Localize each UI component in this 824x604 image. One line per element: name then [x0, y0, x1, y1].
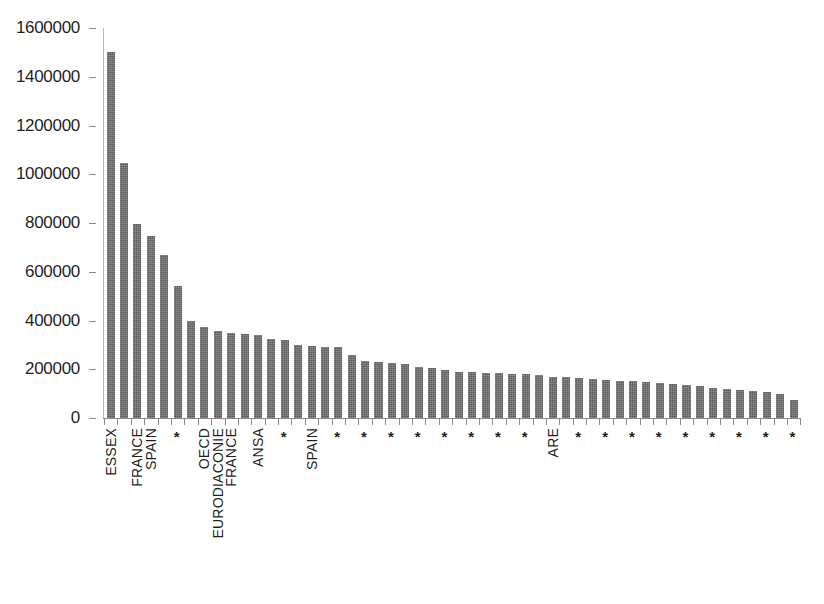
x-axis-label-slot: * — [358, 428, 371, 578]
x-axis-tick-slot — [492, 419, 505, 426]
bar — [254, 335, 262, 418]
x-axis-asterisk-label: * — [575, 429, 581, 444]
bar-slot — [452, 28, 465, 418]
bar — [361, 361, 369, 418]
x-axis-label-slot: ESSEX — [104, 428, 117, 578]
bar — [187, 321, 195, 419]
bar-slot — [640, 28, 653, 418]
x-axis-label-slot: * — [278, 428, 291, 578]
bar — [147, 236, 155, 418]
bar — [776, 394, 784, 418]
x-axis-tick-slot — [506, 419, 519, 426]
x-axis-tick-slot — [225, 419, 238, 426]
x-axis-tick-slot — [144, 419, 157, 426]
y-axis-tick-mark — [89, 126, 96, 127]
bar-slot — [787, 28, 800, 418]
x-axis-tick-mark — [747, 419, 748, 425]
bar-slot — [707, 28, 720, 418]
bar-slot — [466, 28, 479, 418]
y-axis-tick-label: 200000 — [25, 359, 80, 379]
x-axis-tick-mark — [211, 419, 212, 425]
bar-slot — [412, 28, 425, 418]
bar-slot — [117, 28, 130, 418]
x-axis-tick-mark — [265, 419, 266, 425]
bar — [267, 339, 275, 418]
x-axis-tick-mark — [586, 419, 587, 425]
x-axis-tick-slot — [412, 419, 425, 426]
x-axis-tick-mark — [291, 419, 292, 425]
x-axis-tick-slot — [158, 419, 171, 426]
bar — [468, 372, 476, 418]
x-axis-tick-mark — [131, 419, 132, 425]
x-axis-tick-slot — [198, 419, 211, 426]
x-axis-tick-slot — [774, 419, 787, 426]
x-axis-tick-slot — [599, 419, 612, 426]
x-axis-tick-mark — [466, 419, 467, 425]
x-axis-tick-mark — [479, 419, 480, 425]
x-axis-label-slot: * — [599, 428, 612, 578]
x-axis-tick-mark — [506, 419, 507, 425]
x-axis-tick-mark — [720, 419, 721, 425]
y-axis-tick-label: 800000 — [25, 213, 80, 233]
bar-slot — [144, 28, 157, 418]
bar — [294, 345, 302, 418]
x-axis-tick-mark — [452, 419, 453, 425]
bars-layer — [104, 28, 800, 418]
plot-area — [104, 28, 800, 418]
bar — [522, 374, 530, 418]
x-axis-tick-mark — [332, 419, 333, 425]
x-axis-tick-slot — [104, 419, 117, 426]
x-axis-tick-slot — [372, 419, 385, 426]
x-axis-tick-slot — [425, 419, 438, 426]
x-axis-tick-slot — [533, 419, 546, 426]
x-axis-tick-mark — [533, 419, 534, 425]
y-axis-tick-label: 400000 — [25, 311, 80, 331]
bar — [495, 373, 503, 418]
x-axis-label-slot — [452, 428, 465, 578]
x-axis-asterisk-label: * — [361, 429, 367, 444]
bar — [616, 381, 624, 418]
bar-slot — [225, 28, 238, 418]
x-axis-tick-slot — [479, 419, 492, 426]
x-axis-tick-mark — [599, 419, 600, 425]
bar — [549, 377, 557, 418]
x-axis-label-slot — [318, 428, 331, 578]
x-axis-tick-slot — [720, 419, 733, 426]
y-axis-tick-label: 1400000 — [16, 67, 80, 87]
x-axis-tick-slot — [439, 419, 452, 426]
bar-slot — [425, 28, 438, 418]
x-axis-tick-mark — [519, 419, 520, 425]
bar-slot — [251, 28, 264, 418]
bar-slot — [265, 28, 278, 418]
bar-slot — [680, 28, 693, 418]
x-axis-tick-mark — [278, 419, 279, 425]
y-axis-tick-mark — [89, 174, 96, 175]
x-axis-tick-slot — [760, 419, 773, 426]
x-axis-label-slot: SPAIN — [305, 428, 318, 578]
x-axis-tick-mark — [158, 419, 159, 425]
bar — [482, 373, 490, 418]
x-axis-label-slot: * — [760, 428, 773, 578]
x-axis-tick-slot — [707, 419, 720, 426]
x-axis-label-slot: * — [332, 428, 345, 578]
x-axis-tick-slot — [318, 419, 331, 426]
bar-slot — [506, 28, 519, 418]
bar-slot — [479, 28, 492, 418]
x-axis-label-slot — [291, 428, 304, 578]
bar — [736, 390, 744, 418]
x-axis-tick-slot — [693, 419, 706, 426]
x-axis-label-slot — [533, 428, 546, 578]
x-axis-tick-mark — [787, 419, 788, 425]
x-axis-tick-mark — [613, 419, 614, 425]
bar-slot — [613, 28, 626, 418]
y-axis-tick-mark — [89, 321, 96, 322]
x-axis-label-slot: * — [653, 428, 666, 578]
x-axis-tick-mark — [439, 419, 440, 425]
bar-slot — [345, 28, 358, 418]
x-axis-tick-mark — [626, 419, 627, 425]
x-axis-tick-slot — [452, 419, 465, 426]
x-axis-tick-slot — [666, 419, 679, 426]
y-axis-tick-mark — [89, 28, 96, 29]
bar — [374, 362, 382, 418]
x-axis-tick-mark — [492, 419, 493, 425]
